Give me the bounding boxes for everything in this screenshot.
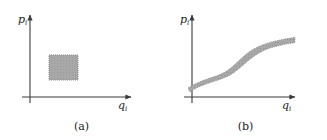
panel-b-region [188, 37, 295, 92]
panel-b-x-axis-label-subscript: i [289, 105, 291, 113]
panel-a-x-axis-label-subscript: i [125, 105, 127, 113]
panel-b-y-axis-label: pi [180, 14, 189, 25]
panel-a-y-axis-label: pi [18, 14, 27, 25]
panel-b-y-axis-label-subscript: i [187, 19, 189, 27]
panel-b-x-axis-label: qi [282, 100, 291, 111]
panel-a-y-axis-label-subscript: i [25, 19, 27, 27]
panel-a-y-axis-label-base: p [18, 13, 25, 26]
panel-b-y-axis-label-base: p [180, 13, 187, 26]
panel-a-region [49, 55, 78, 80]
panel-a-x-axis-label-base: q [118, 99, 125, 112]
panel-a-x-axis-label: qi [118, 100, 127, 111]
panel-b-x-axis-label-base: q [282, 99, 289, 112]
panel-b-caption: (b) [164, 120, 327, 133]
panel-b: pi qi (b) [164, 0, 327, 140]
panel-a-caption: (a) [0, 120, 163, 133]
figure-root: pi qi (a) [0, 0, 327, 140]
panel-a: pi qi (a) [0, 0, 163, 140]
